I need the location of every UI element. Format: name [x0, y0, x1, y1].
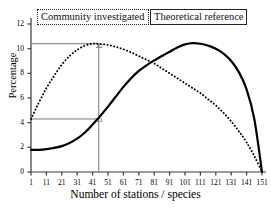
y-tick-label: 0: [10, 167, 24, 176]
y-tick-label: 6: [10, 93, 24, 102]
y-tick-label: 8: [10, 68, 24, 77]
legend-item-community-investigated: Community investigated: [37, 9, 149, 25]
series-line-theoretical-reference: [31, 43, 262, 172]
annotation-label-z1: Z1: [96, 116, 103, 123]
x-tick-label: 151: [253, 178, 271, 187]
reference-line-group: [31, 44, 99, 172]
chart-container: Community investigated Theoretical refer…: [0, 0, 271, 210]
y-tick-label: 12: [10, 19, 24, 28]
y-tick-label: 2: [10, 142, 24, 151]
y-tick-label: 10: [10, 44, 24, 53]
legend-item-theoretical-reference: Theoretical reference: [150, 9, 247, 25]
y-tick-label: 4: [10, 118, 24, 127]
data-series-group: [31, 43, 262, 172]
axis-group: [28, 18, 267, 176]
x-axis-title: Number of stations / species: [0, 188, 271, 200]
series-line-community-investigated: [31, 44, 262, 172]
annotation-label-z2: Z2: [96, 42, 103, 49]
